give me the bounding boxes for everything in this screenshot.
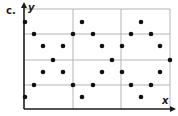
data-point: [120, 70, 125, 75]
x-axis-arrow-icon: [170, 106, 176, 112]
data-point: [71, 83, 76, 88]
data-point: [158, 44, 163, 49]
dot-grid-plot: [0, 0, 178, 116]
data-point: [149, 32, 154, 37]
data-point: [149, 83, 154, 88]
data-point: [51, 58, 56, 63]
data-point: [91, 83, 96, 88]
data-point: [32, 32, 37, 37]
x-axis-label: x: [162, 96, 168, 106]
data-point: [80, 95, 85, 100]
data-point: [129, 83, 134, 88]
data-point: [23, 20, 28, 25]
y-axis-arrow-icon: [21, 2, 27, 8]
data-point: [41, 70, 46, 75]
data-point: [32, 83, 37, 88]
data-point: [120, 44, 125, 49]
data-point: [61, 70, 66, 75]
data-point: [139, 20, 144, 25]
y-axis-label: y: [28, 3, 35, 13]
data-point: [100, 70, 105, 75]
data-point: [71, 32, 76, 37]
data-point: [158, 70, 163, 75]
data-point: [61, 44, 66, 49]
data-point: [129, 32, 134, 37]
panel-label: c.: [6, 5, 16, 16]
figure: [0, 0, 178, 116]
data-point: [91, 32, 96, 37]
data-point: [41, 44, 46, 49]
data-point: [168, 58, 173, 63]
data-point: [110, 58, 115, 63]
data-point: [80, 20, 85, 25]
data-point: [139, 95, 144, 100]
data-point: [100, 44, 105, 49]
data-point: [23, 95, 28, 100]
